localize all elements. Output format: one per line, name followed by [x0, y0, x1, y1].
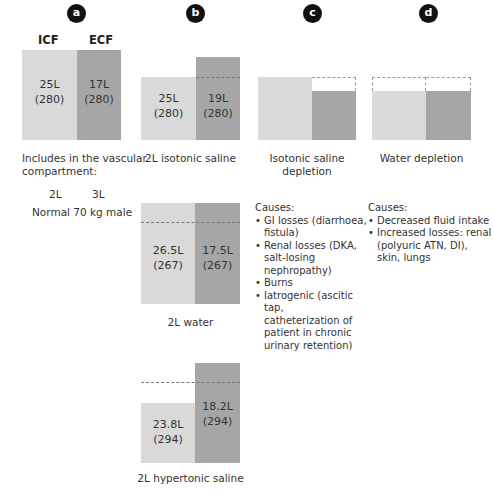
vascular-icf-volume: 2L — [49, 188, 62, 200]
hypertonic-ecf-bar: 18.2L (294) — [195, 363, 240, 463]
hypertonic-icf-osm: (294) — [141, 432, 195, 447]
vascular-note-line1: Includes in the vascular — [22, 152, 147, 164]
hypertonic-ecf-volume: 18.2L — [195, 399, 240, 414]
panel-a-ecf-bar: 17L (280) — [77, 50, 121, 140]
isotonic-baseline-dash — [196, 77, 240, 78]
vascular-note-line2: compartment: — [22, 165, 97, 177]
panel-a-icf-bar: 25L (280) — [22, 50, 77, 140]
saline-depletion-icf-bar — [258, 77, 312, 140]
ecf-volume: 17L — [77, 77, 121, 92]
panel-d-causes-title: Causes: — [368, 202, 493, 215]
panel-c-causes: Causes: GI losses (diarrhoea, fistula) R… — [255, 202, 375, 352]
cause-iatrogenic: Iatrogenic (ascitic tap, catheterization… — [255, 290, 375, 353]
hypertonic-ecf-osm: (294) — [195, 414, 240, 429]
panel-c-caption-line1: Isotonic saline — [258, 152, 356, 164]
water-ecf-bar: 17.5L (267) — [195, 203, 240, 304]
cause-gi-losses: GI losses (diarrhoea, fistula) — [255, 215, 375, 240]
water-icf-osm: (267) — [141, 258, 195, 273]
cause-burns: Burns — [255, 277, 375, 290]
panel-a-caption: Normal 70 kg male — [32, 206, 132, 218]
vascular-ecf-volume: 3L — [92, 188, 105, 200]
isotonic-ecf-osm: (280) — [196, 106, 240, 121]
cause-renal-losses: Renal losses (DKA, salt-losing nephropat… — [255, 240, 375, 278]
water-ecf-osm: (267) — [195, 258, 240, 273]
cause-decreased-intake: Decreased fluid intake — [368, 215, 493, 228]
water-depletion-lost-icf — [372, 77, 426, 91]
water-depletion-ecf-bar — [426, 91, 471, 140]
icf-header: ICF — [38, 33, 59, 47]
saline-depletion-ecf-bar — [312, 91, 356, 140]
isotonic-icf-osm: (280) — [141, 106, 196, 121]
water-depletion-icf-bar — [372, 91, 426, 140]
cause-increased-losses: Increased losses: renal (polyuric ATN, D… — [368, 227, 493, 265]
panel-c-badge: c — [303, 4, 322, 23]
water-baseline-dash — [141, 222, 240, 223]
water-icf-bar: 26.5L (267) — [141, 203, 195, 304]
panel-a-badge: a — [67, 4, 86, 23]
water-ecf-volume: 17.5L — [195, 243, 240, 258]
isotonic-icf-bar: 25L (280) — [141, 77, 196, 140]
icf-osm: (280) — [22, 92, 77, 107]
panel-d-caption: Water depletion — [372, 152, 471, 164]
isotonic-caption: 2L isotonic saline — [141, 152, 240, 164]
panel-d-causes: Causes: Decreased fluid intake Increased… — [368, 202, 493, 265]
isotonic-ecf-volume: 19L — [196, 91, 240, 106]
icf-volume: 25L — [22, 77, 77, 92]
panel-d-badge: d — [419, 4, 438, 23]
saline-depletion-lost-volume — [312, 77, 356, 91]
water-depletion-lost-ecf — [426, 77, 471, 91]
panel-c-causes-title: Causes: — [255, 202, 375, 215]
hypertonic-baseline-dash — [141, 382, 240, 383]
panel-c-caption-line2: depletion — [258, 165, 356, 177]
hypertonic-icf-volume: 23.8L — [141, 417, 195, 432]
water-icf-volume: 26.5L — [141, 243, 195, 258]
isotonic-icf-volume: 25L — [141, 91, 196, 106]
hypertonic-caption: 2L hypertonic saline — [131, 472, 250, 484]
ecf-osm: (280) — [77, 92, 121, 107]
panel-b-badge: b — [186, 4, 205, 23]
water-caption: 2L water — [141, 316, 240, 328]
ecf-header: ECF — [89, 33, 113, 47]
isotonic-ecf-bar: 19L (280) — [196, 57, 240, 140]
hypertonic-icf-bar: 23.8L (294) — [141, 403, 195, 463]
